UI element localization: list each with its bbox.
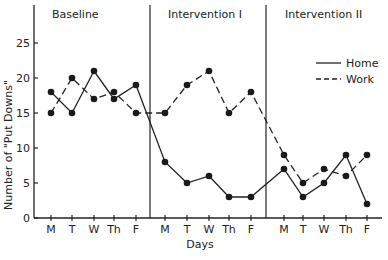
data-point-work	[321, 166, 328, 173]
y-tick-label: 20	[16, 72, 30, 85]
y-tick-label: 25	[16, 37, 30, 50]
data-point-home	[226, 194, 233, 201]
x-tick-label: M	[279, 223, 289, 236]
data-point-work	[48, 110, 55, 117]
data-point-work	[206, 68, 213, 75]
x-tick-label: Th	[221, 223, 236, 236]
data-point-work	[300, 180, 307, 187]
data-point-home	[48, 89, 55, 96]
data-point-home	[111, 96, 118, 103]
x-tick-label: T	[68, 223, 76, 236]
x-tick-label: W	[319, 223, 330, 236]
x-tick-label: Th	[338, 223, 353, 236]
x-tick-label: W	[204, 223, 215, 236]
y-tick-label: 5	[23, 177, 30, 190]
data-point-work	[69, 75, 76, 82]
data-point-work	[343, 173, 350, 180]
y-axis-title: Number of "Put Downs"	[2, 80, 15, 210]
series-line-home	[51, 71, 367, 204]
put-downs-chart: 0510152025MTWThFMTWThFMTWThFDaysNumber o…	[0, 0, 388, 260]
data-point-home	[133, 82, 140, 89]
data-point-home	[300, 194, 307, 201]
data-point-home	[184, 180, 191, 187]
x-tick-label: F	[248, 223, 254, 236]
data-point-work	[133, 110, 140, 117]
y-tick-label: 15	[16, 107, 30, 120]
data-point-home	[321, 180, 328, 187]
data-point-work	[281, 152, 288, 159]
data-point-work	[91, 96, 98, 103]
data-point-work	[248, 89, 255, 96]
x-tick-label: F	[133, 223, 139, 236]
data-point-work	[184, 82, 191, 89]
data-point-home	[248, 194, 255, 201]
data-point-home	[91, 68, 98, 75]
data-point-home	[162, 159, 169, 166]
x-tick-label: T	[183, 223, 191, 236]
phase-label: Baseline	[52, 8, 99, 21]
x-tick-label: F	[364, 223, 370, 236]
data-point-work	[111, 89, 118, 96]
y-tick-label: 0	[23, 212, 30, 225]
data-point-home	[69, 110, 76, 117]
data-point-work	[364, 152, 371, 159]
phase-label: Intervention II	[285, 8, 362, 21]
x-tick-label: M	[46, 223, 56, 236]
x-tick-label: W	[89, 223, 100, 236]
data-point-work	[162, 110, 169, 117]
x-tick-label: T	[299, 223, 307, 236]
data-point-home	[281, 166, 288, 173]
chart-canvas: 0510152025MTWThFMTWThFMTWThFDaysNumber o…	[0, 0, 388, 260]
x-tick-label: Th	[106, 223, 121, 236]
phase-label: Intervention I	[168, 8, 242, 21]
y-tick-label: 10	[16, 142, 30, 155]
data-point-home	[206, 173, 213, 180]
data-point-home	[364, 201, 371, 208]
legend-label-work: Work	[346, 73, 374, 86]
data-point-home	[343, 152, 350, 159]
x-axis-title: Days	[186, 238, 214, 251]
x-tick-label: M	[160, 223, 170, 236]
legend-label-home: Home	[346, 57, 379, 70]
data-point-work	[226, 110, 233, 117]
series-line-work	[51, 71, 367, 183]
